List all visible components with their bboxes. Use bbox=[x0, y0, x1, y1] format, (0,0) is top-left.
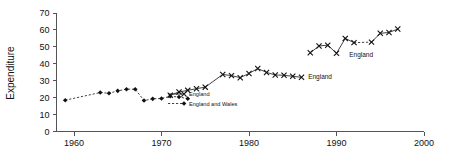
y-tick-label: 40 bbox=[39, 59, 49, 69]
chart-container: Expenditure 010203040506070 196019701980… bbox=[0, 0, 450, 165]
y-tick-label: 10 bbox=[39, 110, 49, 120]
y-tick-label: 20 bbox=[39, 93, 49, 103]
y-tick-label: 30 bbox=[39, 76, 49, 86]
x-tick-label: 1980 bbox=[239, 138, 259, 148]
y-tick-label: 70 bbox=[39, 8, 49, 18]
x-tick-label: 1970 bbox=[151, 138, 171, 148]
legend-label: England bbox=[189, 91, 210, 97]
y-tick-label: 60 bbox=[39, 25, 49, 35]
y-axis-title-label: Expenditure bbox=[5, 46, 16, 100]
y-tick-label: 50 bbox=[39, 42, 49, 52]
x-tick-label: 1990 bbox=[326, 138, 346, 148]
y-tick-label: 0 bbox=[44, 127, 49, 137]
x-tick-label: 2000 bbox=[414, 138, 434, 148]
legend-label: England and Wales bbox=[189, 101, 238, 107]
y-axis-title: Expenditure bbox=[5, 46, 16, 100]
expenditure-line-chart: Expenditure 010203040506070 196019701980… bbox=[0, 0, 450, 165]
series-annotation-label: England bbox=[349, 51, 373, 59]
x-tick-label: 1960 bbox=[64, 138, 84, 148]
series-annotation-label: England bbox=[308, 73, 332, 81]
